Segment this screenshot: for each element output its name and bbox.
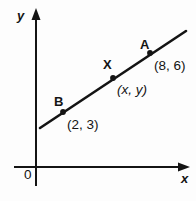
point-label-b: B [54, 95, 63, 108]
point-coord-a: (8, 6) [154, 59, 186, 73]
point-marker-b [60, 109, 66, 115]
point-label-a: A [140, 38, 149, 51]
point-label-x: X [103, 58, 112, 71]
y-axis-arrowhead-icon [32, 8, 41, 20]
point-coord-x: (x, y) [117, 83, 147, 97]
origin-label: 0 [24, 168, 32, 182]
y-axis-label: y [17, 9, 24, 22]
x-axis-label: x [181, 172, 188, 185]
coordinate-geometry-figure: y x 0 A (8, 6) X (x, y) B (2, 3) [0, 0, 196, 201]
point-coord-b: (2, 3) [67, 118, 99, 132]
point-marker-x [110, 75, 116, 81]
